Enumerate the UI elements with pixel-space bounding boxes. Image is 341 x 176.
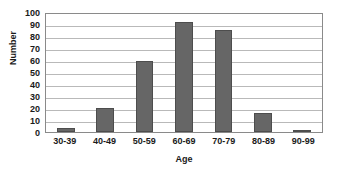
bar-series [46, 14, 322, 132]
x-tick-label: 60-69 [164, 136, 204, 146]
bar-slot [125, 14, 164, 132]
x-tick-label: 50-59 [124, 136, 164, 146]
bar [136, 61, 154, 132]
bar-chart: Number 0102030405060708090100 30-3940-49… [0, 0, 341, 176]
bar-slot [164, 14, 203, 132]
y-tick-label: 30 [16, 93, 40, 102]
y-tick-label: 70 [16, 45, 40, 54]
y-tick-label: 50 [16, 69, 40, 78]
bar [215, 30, 233, 132]
y-tick-label: 90 [16, 21, 40, 30]
y-tick-label: 0 [16, 129, 40, 138]
y-axis-tick-labels: 0102030405060708090100 [16, 8, 42, 134]
x-tick-label: 90-99 [283, 136, 323, 146]
y-tick-label: 100 [16, 9, 40, 18]
bar [57, 128, 75, 132]
x-axis-tick-labels: 30-3940-4950-5960-6970-7980-8990-99 [45, 136, 323, 146]
bar [254, 113, 272, 132]
y-tick-label: 10 [16, 117, 40, 126]
x-tick-label: 30-39 [45, 136, 85, 146]
y-tick-label: 60 [16, 57, 40, 66]
bar-slot [46, 14, 85, 132]
x-tick-label: 40-49 [85, 136, 125, 146]
bar [175, 22, 193, 132]
x-tick-label: 70-79 [204, 136, 244, 146]
bar-slot [243, 14, 282, 132]
plot-area [45, 13, 323, 133]
bar [96, 108, 114, 132]
x-axis-title: Age [45, 154, 323, 164]
x-tick-label: 80-89 [244, 136, 284, 146]
y-tick-label: 20 [16, 105, 40, 114]
bar-slot [204, 14, 243, 132]
bar-slot [283, 14, 322, 132]
y-tick-label: 80 [16, 33, 40, 42]
y-tick-label: 40 [16, 81, 40, 90]
bar [293, 130, 311, 132]
bar-slot [85, 14, 124, 132]
